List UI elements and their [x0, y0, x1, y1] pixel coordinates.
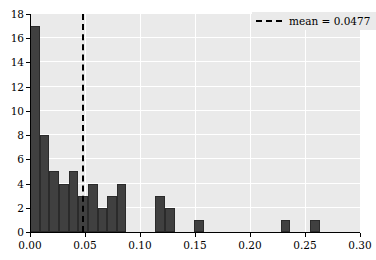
y-tick-mark	[26, 62, 30, 63]
histogram-bar	[281, 220, 291, 232]
histogram-bar	[40, 135, 50, 232]
mean-line	[82, 14, 84, 232]
x-tick-mark	[250, 233, 251, 237]
y-tick-label: 14	[11, 56, 24, 68]
gridline-vertical	[360, 14, 361, 232]
y-tick-mark	[26, 14, 30, 15]
x-tick-label: 0.05	[73, 239, 96, 251]
y-tick-mark	[26, 184, 30, 185]
y-tick-label: 8	[17, 129, 24, 141]
x-tick-label: 0.25	[293, 239, 316, 251]
histogram-bar	[98, 208, 108, 232]
x-tick-label: 0.30	[348, 239, 371, 251]
y-tick-mark	[26, 159, 30, 160]
histogram-bar	[59, 184, 69, 232]
x-tick-mark	[305, 233, 306, 237]
x-tick-mark	[140, 233, 141, 237]
legend-dash-icon	[256, 20, 282, 22]
histogram-figure: 024681012141618 0.000.050.100.150.200.25…	[0, 0, 376, 260]
y-tick-label: 2	[17, 202, 24, 214]
y-tick-label: 0	[17, 226, 24, 238]
histogram-bar	[194, 220, 204, 232]
y-tick-mark	[26, 135, 30, 136]
y-tick-label: 12	[11, 81, 24, 93]
histogram-bar	[88, 184, 98, 232]
y-tick-label: 4	[17, 178, 24, 190]
x-tick-label: 0.20	[238, 239, 261, 251]
y-tick-label: 18	[11, 8, 24, 20]
x-tick-label: 0.00	[18, 239, 41, 251]
histogram-bars	[30, 14, 360, 232]
histogram-bar	[69, 171, 79, 232]
x-tick-mark	[360, 233, 361, 237]
x-tick-mark	[195, 233, 196, 237]
histogram-bar	[107, 196, 117, 232]
histogram-bar	[155, 196, 165, 232]
y-axis-spine	[30, 14, 31, 232]
x-tick-label: 0.10	[128, 239, 151, 251]
y-tick-label: 16	[11, 32, 24, 44]
histogram-bar	[49, 171, 59, 232]
x-tick-label: 0.15	[183, 239, 206, 251]
y-tick-mark	[26, 111, 30, 112]
histogram-bar	[117, 184, 127, 232]
histogram-bar	[165, 208, 175, 232]
x-tick-mark	[30, 233, 31, 237]
histogram-bar	[310, 220, 320, 232]
legend-label: mean = 0.0477	[289, 15, 370, 27]
y-tick-mark	[26, 87, 30, 88]
plot-area	[30, 14, 360, 232]
x-tick-mark	[85, 233, 86, 237]
legend: mean = 0.0477	[252, 12, 376, 30]
histogram-bar	[30, 26, 40, 232]
y-tick-label: 10	[11, 105, 24, 117]
y-tick-mark	[26, 208, 30, 209]
y-tick-label: 6	[17, 153, 24, 165]
y-tick-mark	[26, 38, 30, 39]
